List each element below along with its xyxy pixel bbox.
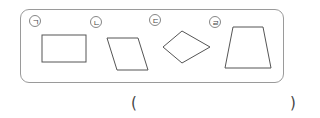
answer-blank[interactable] (140, 94, 288, 112)
parallelogram-shape (107, 38, 148, 70)
choice-label: ㄴ (93, 19, 100, 28)
choice-label: ㄱ (32, 18, 39, 27)
choice-nieun: ㄴ (91, 17, 149, 71)
trapezoid-shape (225, 27, 271, 68)
choice-giyeok: ㄱ (30, 16, 87, 63)
answer-open-paren: ( (131, 94, 137, 112)
choice-digeut: ㄷ (150, 15, 211, 64)
rhombus-shape (163, 31, 210, 63)
rectangle-shape (42, 35, 86, 62)
choice-label: ㄹ (212, 19, 219, 28)
choice-label: ㄷ (152, 17, 159, 26)
answer-close-paren: ) (290, 94, 296, 112)
choice-rieul: ㄹ (210, 17, 272, 69)
